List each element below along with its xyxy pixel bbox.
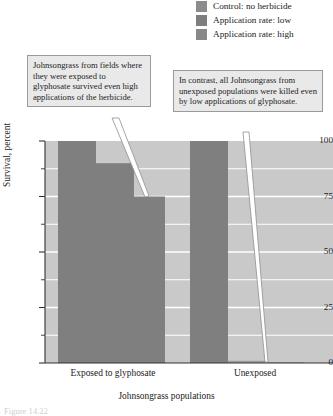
bar-exposed-control bbox=[58, 141, 96, 363]
y-axis-major-ticks bbox=[39, 141, 45, 363]
x-tick-label-exposed: Exposed to glyphosate bbox=[38, 368, 188, 378]
x-axis-title: Johnsongrass populations bbox=[0, 391, 333, 401]
bar-unexposed-control bbox=[190, 141, 228, 363]
callout-right-text: In contrast, all Johnsongrass from unexp… bbox=[179, 75, 317, 107]
figure-caption: Figure 14.22 bbox=[4, 406, 48, 416]
y-tick-label-50: 50 bbox=[307, 246, 333, 256]
callout-left-text: Johnsongrass from fields where they were… bbox=[33, 60, 145, 102]
callout-right: In contrast, all Johnsongrass from unexp… bbox=[173, 70, 323, 112]
y-tick-label-0: 0 bbox=[307, 357, 333, 367]
x-tick-label-unexposed: Unexposed bbox=[196, 368, 314, 378]
y-tick-label-100: 100 bbox=[307, 135, 333, 145]
y-axis-title: Survival, percent bbox=[2, 123, 12, 187]
callout-left: Johnsongrass from fields where they were… bbox=[27, 55, 151, 107]
bar-exposed-high bbox=[127, 197, 165, 364]
figure-root: Control: no herbicide Application rate: … bbox=[0, 0, 333, 416]
y-tick-label-25: 25 bbox=[307, 302, 333, 312]
y-tick-label-75: 75 bbox=[307, 191, 333, 201]
